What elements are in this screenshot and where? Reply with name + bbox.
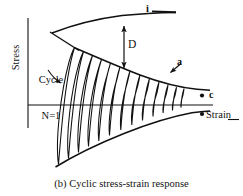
cycle-annotation: Cycle N=1 — [33, 50, 69, 147]
initial-curve-label: i — [146, 3, 149, 14]
initial-curve-tick — [152, 11, 176, 12]
hysteresis-loop — [120, 71, 130, 130]
strain-axis-dot — [200, 112, 204, 116]
hysteresis-loop — [172, 87, 176, 110]
hysteresis-loop — [153, 82, 159, 117]
initial-curve-group — [52, 11, 176, 33]
hysteresis-loop — [163, 85, 168, 113]
hysteresis-loop — [109, 67, 120, 136]
cyclic-curve-dot — [200, 93, 204, 97]
stress-axis-label: Stress — [10, 30, 21, 86]
figure-caption: (b) Cyclic stress-strain response — [0, 178, 243, 189]
cyclic-curve-label: c — [209, 90, 213, 101]
cycle-annotation-line1: Cycle — [33, 74, 69, 86]
cycle-annotation-line2: N=1 — [33, 110, 69, 122]
cyclic-stress-strain-figure: Stress Cycle N=1 i D a c Strain (b) Cycl… — [0, 0, 243, 196]
hysteresis-loop — [142, 79, 149, 121]
strain-axis-label: Strain — [206, 109, 231, 120]
hysteresis-loop — [131, 75, 140, 125]
initial-monotonic-curve — [52, 12, 176, 33]
damage-label: D — [128, 38, 136, 50]
hysteresis-loops-group — [57, 48, 184, 165]
envelope-label: a — [177, 57, 182, 68]
